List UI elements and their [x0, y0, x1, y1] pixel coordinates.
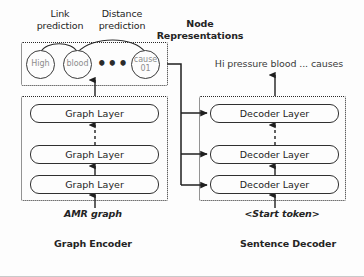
node-label-cause-line2: 01: [134, 65, 157, 74]
decoder-output-sentence: Hi pressure blood ... causes: [200, 58, 358, 70]
distance-prediction-label: Distance prediction: [91, 8, 153, 31]
node-label-blood: blood: [66, 60, 88, 69]
decoder-layer-3[interactable]: Decoder Layer: [210, 104, 339, 123]
sentence-decoder-title: Sentence Decoder: [228, 238, 348, 250]
start-token-input-label: <Start token>: [232, 208, 332, 220]
decoder-layer-2-label: Decoder Layer: [240, 149, 309, 160]
graph-layer-2[interactable]: Graph Layer: [30, 145, 159, 164]
node-ellipsis: •••: [97, 58, 127, 70]
decoder-layer-3-label: Decoder Layer: [240, 108, 309, 119]
graph-layer-3[interactable]: Graph Layer: [30, 104, 159, 123]
diagram-canvas: Link prediction Distance prediction Node…: [0, 0, 364, 277]
graph-layer-1-label: Graph Layer: [65, 179, 124, 190]
node-representation-bus: [167, 64, 181, 185]
graph-layer-1[interactable]: Graph Layer: [30, 175, 159, 194]
decoder-layer-2[interactable]: Decoder Layer: [210, 145, 339, 164]
graph-layer-2-label: Graph Layer: [65, 149, 124, 160]
node-circle-cause[interactable]: cause 01: [131, 50, 160, 79]
link-prediction-label: Link prediction: [31, 8, 89, 31]
graph-layer-3-label: Graph Layer: [65, 108, 124, 119]
node-representations-label: Node Representations: [152, 18, 248, 41]
node-label-high: High: [31, 60, 49, 69]
node-circle-high[interactable]: High: [26, 50, 55, 79]
node-circle-blood[interactable]: blood: [63, 50, 92, 79]
amr-graph-input-label: AMR graph: [43, 208, 143, 220]
decoder-layer-1-label: Decoder Layer: [240, 179, 309, 190]
decoder-layer-1[interactable]: Decoder Layer: [210, 175, 339, 194]
graph-encoder-title: Graph Encoder: [33, 238, 153, 250]
